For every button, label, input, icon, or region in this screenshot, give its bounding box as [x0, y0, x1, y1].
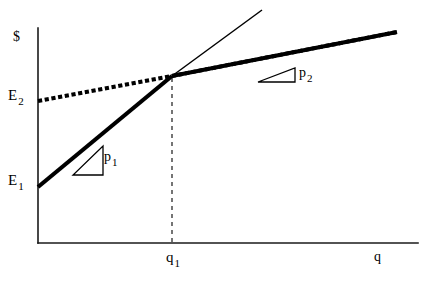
label-p2: p2: [299, 66, 312, 80]
label-e2-base: E: [8, 87, 17, 103]
label-e1: E1: [8, 173, 23, 188]
x-axis-label: q: [374, 250, 381, 264]
label-e2: E2: [8, 88, 23, 103]
y-axis-label: $: [13, 30, 20, 44]
label-p2-subscript: 2: [307, 72, 313, 84]
label-q1-subscript: 1: [175, 257, 181, 269]
label-p1: p1: [104, 150, 117, 164]
figure-canvas: [0, 0, 429, 284]
label-q1: q1: [166, 250, 179, 265]
steep-schedule-thick-curve: [38, 76, 172, 187]
label-p2-base: p: [299, 65, 306, 80]
label-p1-base: p: [104, 149, 111, 164]
price-schedule-figure: $ q E2 E1 q1 p1 p2: [0, 0, 429, 284]
slope-triangle-p2: [258, 68, 295, 82]
label-e1-subscript: 1: [18, 180, 24, 192]
label-q1-base: q: [166, 249, 174, 265]
label-p1-subscript: 1: [112, 156, 118, 168]
slope-triangle-p1: [73, 146, 103, 175]
label-e2-subscript: 2: [18, 95, 24, 107]
shallow-schedule-thick-curve: [172, 32, 397, 76]
label-e1-base: E: [8, 172, 17, 188]
